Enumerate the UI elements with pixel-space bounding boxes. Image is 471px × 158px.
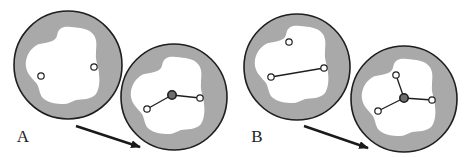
cavity-a-initial — [14, 11, 122, 119]
panel-label-a: A — [17, 127, 30, 146]
cavity-b-final — [351, 46, 457, 152]
guest-atom — [197, 95, 203, 101]
guest-atom — [375, 108, 381, 114]
guest-atom — [144, 106, 150, 112]
panel-b: B — [244, 14, 457, 152]
guest-atom — [429, 97, 435, 103]
guest-atom — [286, 39, 292, 45]
central-atom — [400, 94, 408, 102]
guest-atom — [91, 64, 97, 70]
cavity-b-initial — [244, 14, 350, 120]
reaction-arrow — [76, 126, 140, 147]
guest-atom — [268, 74, 274, 80]
guest-atom — [38, 73, 44, 79]
guest-atom — [321, 65, 327, 71]
cavity-reaction-diagram: A B — [0, 0, 471, 158]
reaction-arrow — [304, 126, 368, 148]
panel-label-b: B — [251, 127, 262, 146]
cavity-a-final — [121, 44, 227, 150]
guest-atom — [393, 72, 399, 78]
panel-a: A — [14, 11, 227, 150]
central-atom — [168, 91, 176, 99]
